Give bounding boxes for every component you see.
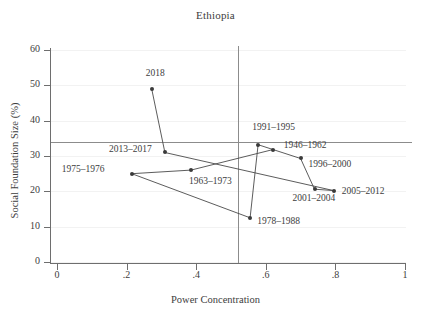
point-label: 1975–1976	[62, 164, 105, 174]
series-polyline	[0, 0, 431, 316]
point-label: 2018	[146, 68, 165, 78]
data-point-marker[interactable]	[271, 148, 275, 152]
point-label: 1946–1962	[284, 140, 327, 150]
point-label: 2001–2004	[293, 193, 336, 203]
point-label: 2005–2012	[342, 186, 385, 196]
data-point-marker[interactable]	[256, 143, 260, 147]
data-point-marker[interactable]	[332, 189, 336, 193]
data-point-marker[interactable]	[248, 216, 252, 220]
chart-root: Ethiopia Social Foundation Size (%) Powe…	[0, 0, 431, 316]
point-label: 1978–1988	[257, 216, 300, 226]
point-label: 1991–1995	[252, 122, 295, 132]
data-point-marker[interactable]	[130, 172, 134, 176]
data-point-marker[interactable]	[313, 187, 317, 191]
point-label: 1963–1973	[189, 176, 232, 186]
data-point-marker[interactable]	[150, 87, 154, 91]
plot-area: 01020304050600.2.4.6.81 1946–19621963–19…	[0, 0, 431, 316]
point-label: 1996–2000	[309, 159, 352, 169]
point-label: 2013–2017	[109, 144, 152, 154]
